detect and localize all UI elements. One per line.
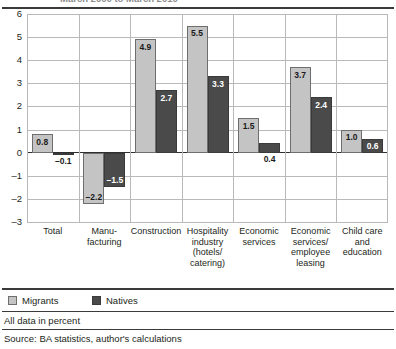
bar-value-label: 4.9 [135,42,156,52]
top-rule [2,7,394,9]
bar-natives-0 [53,153,74,155]
bar-value-label: 3.7 [290,70,311,80]
figure-panel: March 2000 to March 2010 0.8–0.1–2.2–1.5… [0,0,396,349]
plot-area: 0.8–0.1–2.2–1.54.92.75.53.31.50.43.72.41… [27,14,388,222]
x-axis-label-line: Manu- [79,226,131,237]
x-axis-label-line: services [233,237,285,248]
legend-label: Natives [106,295,138,306]
x-axis-label-line: (hotels/ [182,247,234,258]
bar-value-label: 0.8 [32,137,53,147]
chart-title-text: March 2000 to March 2010 [60,0,178,4]
x-axis-label-1: Manu-facturing [79,226,131,247]
legend-rule [2,311,394,312]
legend-swatch-icon [92,296,101,305]
y-axis-tick-label: 4 [0,54,22,65]
x-axis-rule [2,288,394,290]
y-axis-tick-label: 0 [0,147,22,158]
x-axis-label-5: Economicservices/employeeleasing [285,226,337,268]
x-axis-label-line: Total [27,226,79,237]
bar-value-label: 0.6 [362,141,383,151]
plot-right-border [387,14,388,222]
x-axis-label-0: Total [27,226,79,237]
y-axis-tick-label: –2 [0,193,22,204]
x-axis-label-line: education [336,247,388,258]
y-axis-tick-label: –1 [0,170,22,181]
x-axis-label-line: Economic [233,226,285,237]
x-axis-label-4: Economicservices [233,226,285,247]
legend-swatch-icon [8,296,17,305]
bar-value-label: 0.4 [255,154,284,164]
chart-title-clipped: March 2000 to March 2010 [0,0,396,7]
x-axis-label-line: facturing [79,237,131,248]
bar-migrants-5 [290,67,311,153]
y-axis-tick-label: –3 [0,216,22,227]
x-axis-label-2: Construction [130,226,182,237]
x-axis-label-line: Child care [336,226,388,237]
x-axis-label-line: leasing [285,258,337,269]
x-axis-label-3: Hospitalityindustry(hotels/catering) [182,226,234,268]
bar-value-label: –0.1 [49,156,78,166]
category-separator [336,14,337,222]
bar-value-label: 3.3 [208,79,229,89]
bar-value-label: –2.2 [83,192,104,202]
x-axis-label-line: catering) [182,258,234,269]
grid-line [27,176,388,177]
grid-line [27,199,388,200]
units-note: All data in percent [4,315,80,326]
bar-natives-4 [259,143,280,152]
category-separator [130,14,131,222]
y-axis-tick-label: 2 [0,100,22,111]
bar-value-label: 1.5 [238,121,259,131]
bar-value-label: 1.0 [341,132,362,142]
grid-line [27,37,388,38]
note-rule [2,329,394,330]
y-axis-tick-label: 6 [0,8,22,19]
x-axis-label-line: industry [182,237,234,248]
category-separator [79,14,80,222]
x-axis-label-line: employee [285,247,337,258]
y-axis-tick-label: 5 [0,31,22,42]
y-axis-tick-label: 1 [0,124,22,135]
x-axis-label-6: Child careandeducation [336,226,388,258]
source-note: Source: BA statistics, author's calculat… [4,333,182,344]
y-axis-tick-label: 3 [0,77,22,88]
x-axis-label-line: Hospitality [182,226,234,237]
plot-left-border [27,14,28,222]
grid-line [27,14,388,15]
grid-line [27,60,388,61]
bar-value-label: –1.5 [104,175,125,185]
bar-value-label: 2.4 [311,100,332,110]
x-axis-label-line: Construction [130,226,182,237]
grid-line [27,222,388,223]
category-separator [233,14,234,222]
x-axis-label-line: services/ [285,237,337,248]
x-axis-labels: TotalManu-facturingConstructionHospitali… [27,226,388,288]
legend-label: Migrants [22,295,58,306]
bar-value-label: 5.5 [187,28,208,38]
category-separator [182,14,183,222]
bar-value-label: 2.7 [156,93,177,103]
x-axis-label-line: Economic [285,226,337,237]
legend-item-migrants: Migrants [8,295,58,306]
x-axis-label-line: and [336,237,388,248]
bar-migrants-2 [135,39,156,152]
bar-migrants-3 [187,26,208,153]
category-separator [285,14,286,222]
legend-item-natives: Natives [92,295,138,306]
